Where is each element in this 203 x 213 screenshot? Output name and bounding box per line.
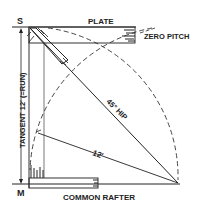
label-s: S [17, 16, 23, 26]
label-plate: PLATE [88, 17, 114, 26]
arrow-up-icon [19, 28, 23, 33]
plate-end-shading [122, 30, 135, 41]
tangent-bottom-shading [31, 165, 43, 178]
hip-rafter-diagram: S M PLATE ZERO PITCH TANGENT 12' (=RUN) … [0, 0, 203, 213]
rafter-end-shading [93, 180, 98, 186]
label-radius: 12' [91, 148, 104, 160]
arrow-down-icon [19, 179, 23, 184]
common-rafter-member [29, 178, 98, 188]
label-common-rafter: COMMON RAFTER [63, 193, 135, 202]
hip-line [30, 28, 178, 183]
label-m: M [17, 188, 25, 198]
label-tangent: TANGENT 12' (=RUN) [18, 72, 27, 148]
label-zero-pitch: ZERO PITCH [144, 32, 189, 41]
plate-member [29, 27, 135, 43]
radius-line [38, 133, 178, 183]
